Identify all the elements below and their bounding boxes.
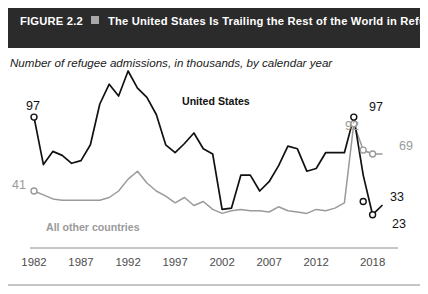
- x-tick-1982: 1982: [21, 256, 46, 268]
- annotation-us-2017: 33: [390, 190, 404, 204]
- data-point-marker: [370, 212, 376, 218]
- annotation-other-peak: 92: [345, 119, 359, 133]
- series-label-all-other-countries: All other countries: [46, 221, 140, 233]
- x-tick-2012: 2012: [304, 256, 329, 268]
- other-countries-line: [34, 124, 382, 214]
- x-tick-2002: 2002: [209, 256, 234, 268]
- annotation-us-2018: 23: [392, 217, 406, 231]
- chart-svg: [0, 0, 428, 294]
- series-label-united-states: United States: [182, 95, 250, 107]
- data-point-marker: [360, 147, 366, 153]
- series-united-states: [34, 71, 382, 215]
- x-tick-2018: 2018: [360, 256, 385, 268]
- annotation-us-1982: 97: [26, 99, 40, 113]
- annotation-us-peak: 97: [369, 100, 383, 114]
- annotation-other-1982: 41: [12, 178, 26, 192]
- united-states-line: [34, 71, 382, 215]
- chart-plot-area: [0, 0, 428, 294]
- x-tick-2007: 2007: [256, 256, 281, 268]
- annotation-other-2018: 69: [399, 139, 413, 153]
- x-tick-1992: 1992: [115, 256, 140, 268]
- data-point-marker: [370, 151, 376, 157]
- x-tick-1997: 1997: [162, 256, 187, 268]
- x-tick-1987: 1987: [68, 256, 93, 268]
- data-point-marker: [31, 188, 37, 194]
- data-point-marker: [360, 199, 366, 205]
- series-other-countries: [34, 124, 382, 214]
- figure-container: FIGURE 2.2The United States Is Trailing …: [0, 0, 428, 294]
- data-point-marker: [31, 114, 37, 120]
